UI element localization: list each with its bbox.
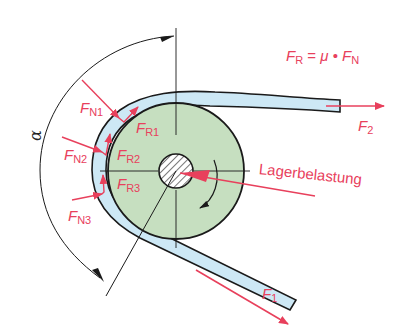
fr1-label: FR1	[136, 120, 159, 138]
friction-formula: FR = μ • FN	[286, 47, 359, 66]
formula-fr-symbol: F	[286, 47, 295, 64]
fn2-label: FN2	[64, 147, 87, 165]
f2-label: F2	[358, 118, 373, 136]
fn3-label: FN3	[68, 208, 91, 226]
angle-alpha-label: α	[26, 130, 45, 141]
formula-mu: μ	[320, 47, 328, 64]
fr3-label: FR3	[117, 176, 140, 194]
f1-label: F1	[262, 286, 277, 304]
formula-fn-sub: N	[351, 54, 359, 66]
formula-dot: •	[333, 47, 338, 64]
formula-fn-symbol: F	[342, 47, 351, 64]
fn1-label: FN1	[80, 100, 103, 118]
formula-fr-sub: R	[295, 54, 303, 66]
fr2-label: FR2	[117, 147, 140, 165]
formula-equals: =	[307, 47, 316, 64]
belt-friction-diagram: FR = μ • FN α Lagerbelastung FN1 FN2 FN3…	[0, 0, 413, 334]
